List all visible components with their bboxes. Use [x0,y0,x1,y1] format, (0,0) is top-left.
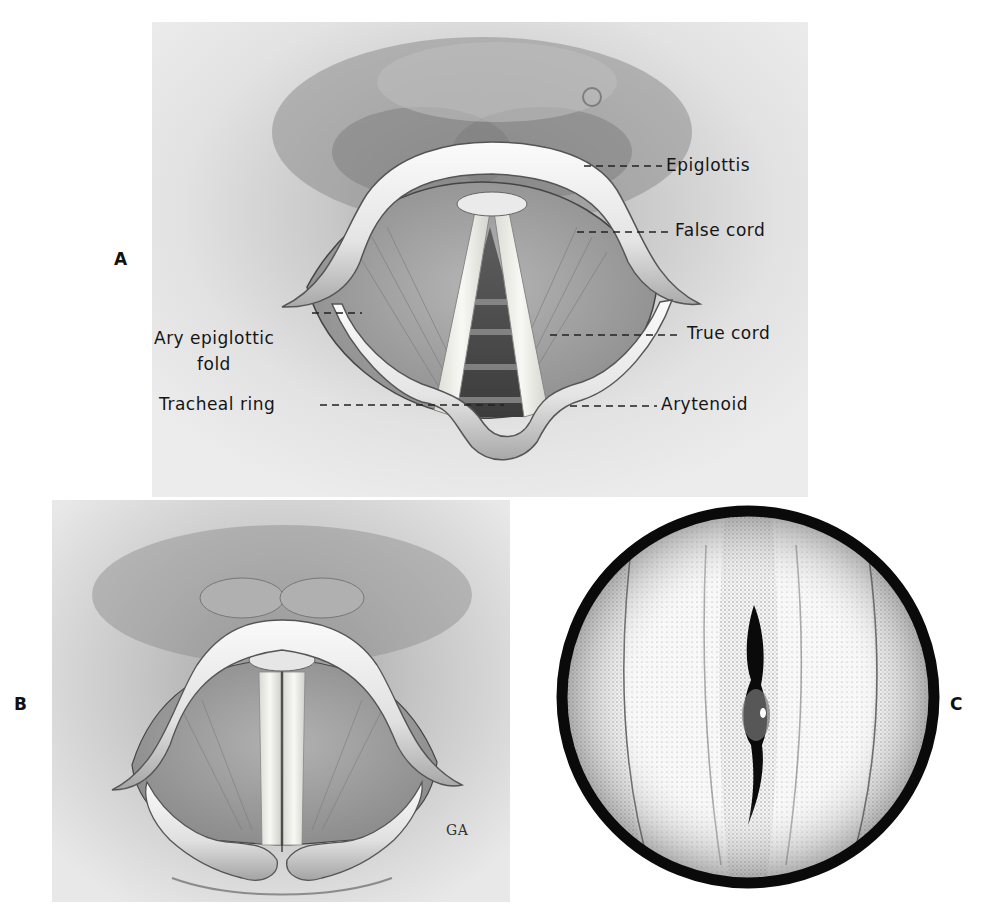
label-tracheal-ring: Tracheal ring [159,396,275,413]
label-false-cord: False cord [675,222,765,239]
label-epiglottis: Epiglottis [666,157,750,174]
stippled-glottis-drawing [556,505,940,889]
label-aryepiglottic-fold-line1: Ary epiglottic [154,330,274,347]
panel-label-b: B [14,694,27,714]
label-arytenoid: Arytenoid [661,396,748,413]
panel-label-c: C [950,694,962,714]
panel-b-larynx-closed-illustration [52,500,510,902]
panel-c-laryngoscopic-view [556,505,940,889]
panel-a-larynx-open-illustration [152,22,808,497]
label-aryepiglottic-fold-line2: fold [197,356,231,373]
label-true-cord: True cord [687,325,770,342]
panel-label-a: A [114,249,127,269]
larynx-abducted-drawing [152,22,808,497]
artist-signature-text: GA [446,823,468,837]
larynx-adducted-drawing [52,500,510,902]
